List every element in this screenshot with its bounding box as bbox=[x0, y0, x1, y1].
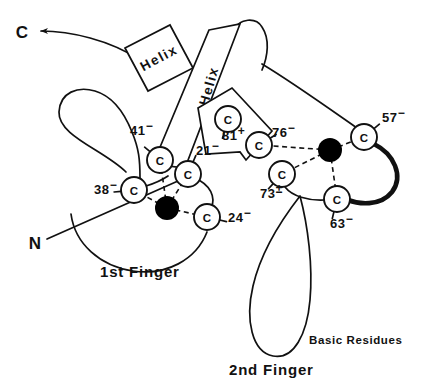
cys-38: C38− bbox=[94, 177, 147, 203]
cys-57-number-label: 57− bbox=[382, 106, 405, 125]
cys-24-letter: C bbox=[203, 212, 211, 224]
c-terminus-chain bbox=[41, 31, 140, 60]
caption-second-finger: 2nd Finger bbox=[229, 361, 314, 378]
cys-76-letter: C bbox=[255, 140, 263, 152]
caption-basic-residues: Basic Residues bbox=[309, 334, 402, 346]
cys-38-letter: C bbox=[130, 185, 138, 197]
cys-41-number-label: 41− bbox=[130, 119, 153, 138]
cys-24-number-label: 24− bbox=[228, 206, 251, 225]
helix-box-1: Helix bbox=[125, 25, 193, 91]
cys-63-letter: C bbox=[333, 194, 341, 206]
cys-57-letter: C bbox=[360, 132, 368, 144]
cys-21-letter: C bbox=[184, 169, 192, 181]
cys-41-stub bbox=[145, 147, 150, 151]
zinc-2 bbox=[318, 138, 342, 162]
zinc-finger-diagram: Helix Helix C41−C21−C38−C24−C81+C76−C73±… bbox=[0, 0, 440, 392]
zinc-1 bbox=[155, 196, 179, 220]
protein-schematic-canvas: Helix Helix C41−C21−C38−C24−C81+C76−C73±… bbox=[0, 0, 440, 392]
cys-24-stub bbox=[220, 220, 227, 222]
cys-38-number-label: 38− bbox=[94, 178, 117, 197]
right-thick-loop bbox=[348, 144, 397, 203]
cys-81-letter: C bbox=[224, 114, 232, 126]
cys-76-number-label: 76− bbox=[272, 121, 295, 140]
cys-63: C63− bbox=[324, 186, 353, 231]
caption-first-finger: 1st Finger bbox=[100, 263, 180, 280]
chain-to-cys57 bbox=[262, 64, 357, 128]
cys-57: C57− bbox=[351, 106, 405, 150]
cys-41-letter: C bbox=[156, 155, 164, 167]
cys-73-letter: C bbox=[278, 169, 286, 181]
cys-73: C73± bbox=[260, 161, 295, 201]
c-terminus-label: C bbox=[16, 23, 28, 42]
chain-cys73-to-cys63 bbox=[285, 187, 325, 200]
n-terminus-label: N bbox=[29, 234, 41, 253]
basic-residues-loop bbox=[250, 196, 311, 356]
left-outer-loop bbox=[59, 89, 140, 178]
cys-57-stub bbox=[374, 124, 379, 128]
cys-24: C24− bbox=[194, 204, 251, 230]
chain-cys38-to-helix bbox=[146, 176, 168, 186]
